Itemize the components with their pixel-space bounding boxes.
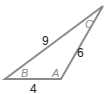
side-label-ab: 4 — [30, 82, 37, 94]
side-label-ac: 6 — [77, 46, 84, 60]
side-label-bc: 9 — [42, 34, 49, 48]
angle-label-c: C — [85, 18, 93, 30]
triangle-diagram: 9 6 4 B A C — [0, 0, 105, 94]
angle-label-b: B — [21, 67, 28, 79]
angle-label-a: A — [51, 67, 59, 79]
